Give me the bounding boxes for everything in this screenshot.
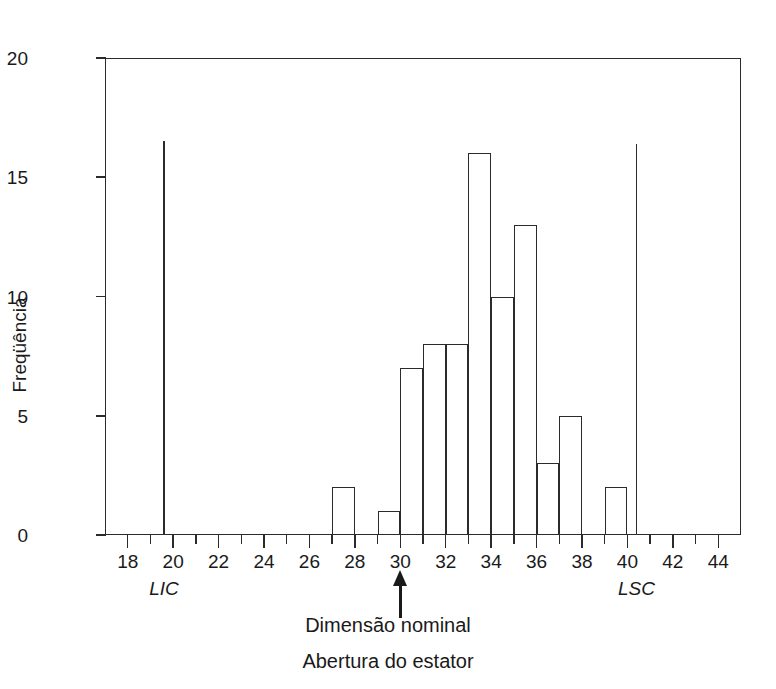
x-tick-minor — [649, 535, 650, 544]
x-tick-label: 20 — [148, 551, 198, 573]
y-tick-mark — [96, 296, 106, 298]
lower-spec-limit-label: LIC — [129, 578, 199, 600]
y-tick-label: 0 — [0, 526, 28, 545]
x-tick-major — [490, 535, 492, 548]
x-tick-minor — [331, 535, 332, 544]
x-tick-major — [354, 535, 356, 548]
y-tick-label: 20 — [0, 49, 28, 68]
x-tick-minor — [241, 535, 242, 544]
x-tick-major — [218, 535, 220, 548]
histogram-bar — [468, 153, 491, 535]
x-tick-label: 34 — [466, 551, 516, 573]
y-tick-mark — [96, 176, 106, 178]
caption-nominal-dimension: Dimensão nominal — [0, 614, 776, 637]
upper-spec-limit-label: LSC — [602, 578, 672, 600]
histogram-bar — [491, 297, 514, 536]
x-tick-major — [400, 535, 402, 548]
x-tick-label: 22 — [194, 551, 244, 573]
x-tick-major — [263, 535, 265, 548]
histogram-bar — [378, 511, 401, 535]
y-tick-mark — [96, 534, 106, 536]
lower-spec-limit-line — [163, 141, 165, 535]
x-tick-label: 42 — [648, 551, 698, 573]
x-tick-minor — [559, 535, 560, 544]
x-tick-major — [172, 535, 174, 548]
x-tick-major — [127, 535, 129, 548]
nominal-dimension-arrow — [385, 570, 415, 618]
x-tick-label: 28 — [330, 551, 380, 573]
y-tick-mark — [96, 415, 106, 417]
x-tick-label: 44 — [693, 551, 743, 573]
y-tick-mark — [96, 57, 106, 59]
x-tick-minor — [468, 535, 469, 544]
y-axis-title: Freqüência — [9, 185, 31, 505]
x-tick-major — [581, 535, 583, 548]
x-tick-minor — [695, 535, 696, 544]
x-tick-major — [309, 535, 311, 548]
histogram-bar — [537, 463, 560, 535]
histogram-bar — [423, 344, 446, 535]
x-tick-minor — [422, 535, 423, 544]
x-tick-label: 36 — [512, 551, 562, 573]
x-tick-label: 40 — [602, 551, 652, 573]
arrow-shaft-icon — [399, 584, 402, 618]
x-tick-major — [718, 535, 720, 548]
x-tick-label: 26 — [284, 551, 334, 573]
x-tick-minor — [377, 535, 378, 544]
x-tick-label: 24 — [239, 551, 289, 573]
x-tick-minor — [150, 535, 151, 544]
x-tick-minor — [513, 535, 514, 544]
histogram-bar — [514, 225, 537, 535]
y-tick-label: 15 — [0, 168, 28, 187]
x-tick-major — [445, 535, 447, 548]
x-tick-label: 32 — [421, 551, 471, 573]
histogram-bar — [400, 368, 423, 535]
x-tick-label: 18 — [103, 551, 153, 573]
x-tick-major — [672, 535, 674, 548]
x-tick-major — [627, 535, 629, 548]
caption-x-axis-title: Abertura do estator — [0, 650, 776, 673]
x-tick-major — [536, 535, 538, 548]
x-tick-label: 38 — [557, 551, 607, 573]
histogram-bar — [446, 344, 469, 535]
histogram-bar — [559, 416, 582, 535]
x-tick-minor — [604, 535, 605, 544]
upper-spec-limit-line — [636, 144, 638, 535]
x-tick-minor — [286, 535, 287, 544]
x-tick-minor — [195, 535, 196, 544]
histogram-bar — [605, 487, 628, 535]
histogram-bar — [332, 487, 355, 535]
histogram-figure: 05101520 1820222426283032343638404244 LI… — [0, 0, 776, 689]
